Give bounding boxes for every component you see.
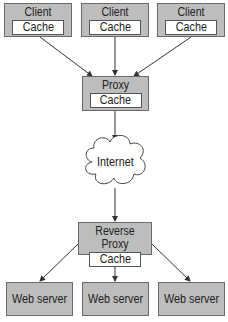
reverse-proxy-node: Reverse Proxy Cache [78, 222, 152, 255]
client-title: Client [86, 6, 144, 19]
proxy-title: Proxy [87, 79, 144, 92]
client-title: Client [162, 6, 220, 19]
proxy-node: Proxy Cache [82, 76, 149, 111]
reverse-proxy-cache: Cache [89, 252, 141, 267]
web-server-node-1: Web server [6, 282, 73, 316]
client-cache: Cache [89, 20, 141, 35]
client-node-2: Client Cache [81, 3, 149, 37]
client-cache: Cache [165, 20, 217, 35]
web-server-node-2: Web server [82, 282, 149, 316]
web-server-node-3: Web server [158, 282, 225, 316]
client-node-1: Client Cache [4, 3, 72, 37]
reverse-proxy-title: Reverse Proxy [83, 225, 146, 251]
proxy-cache: Cache [90, 93, 142, 108]
client-node-3: Client Cache [157, 3, 225, 37]
client-title: Client [9, 6, 67, 19]
internet-label: Internet [97, 155, 134, 169]
client-cache: Cache [12, 20, 64, 35]
